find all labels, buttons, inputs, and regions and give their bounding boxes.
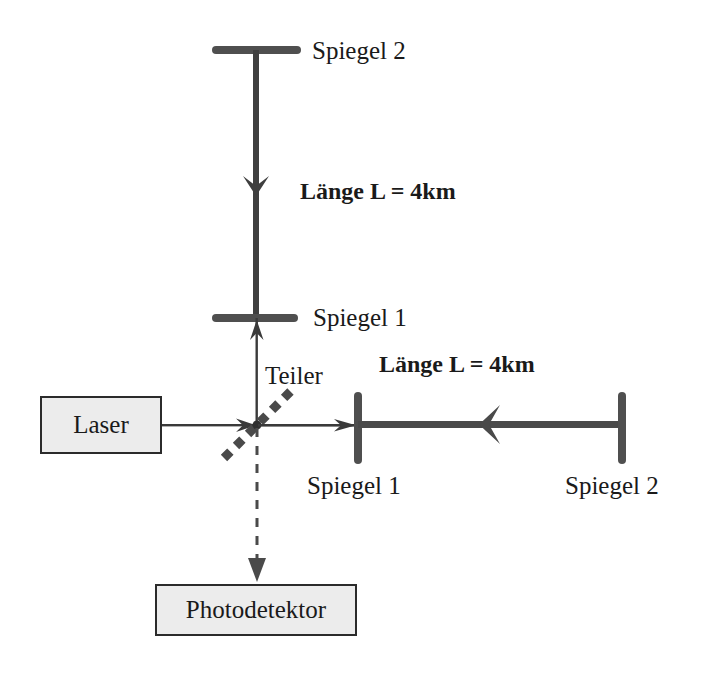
label-spiegel1-vertical-arm: Spiegel 1 [313,305,407,330]
label-length-vertical-arm: Länge L = 4km [300,179,456,203]
mirror-spiegel1-vertical-arm [212,314,298,322]
photodetektor-box: Photodetektor [155,584,357,636]
label-spiegel2-vertical-arm: Spiegel 2 [312,38,406,63]
label-length-horizontal-arm: Länge L = 4km [379,352,535,376]
beam-splitter-to-spiegel1-vertical [256,318,258,426]
label-spiegel1-horizontal-arm: Spiegel 1 [307,473,401,498]
mirror-spiegel2-horizontal-arm [618,392,626,464]
diagram-canvas [0,0,707,678]
interferometer-diagram: Spiegel 2 Länge L = 4km Spiegel 1 Teiler… [0,0,707,678]
label-teiler: Teiler [265,363,323,388]
arrowhead-photodetektor-input [248,558,266,582]
laser-box: Laser [40,396,162,454]
label-spiegel2-horizontal-arm: Spiegel 2 [565,473,659,498]
beam-horizontal-arm [358,421,626,428]
